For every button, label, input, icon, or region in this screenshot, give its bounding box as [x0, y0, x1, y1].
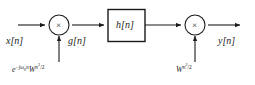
mod-left-w-exp-div: /2	[40, 64, 44, 70]
chirp-modulation-block-diagram: × × x[n] g[n] y[n] h[n] e−jω0nWn2/2 Wn2/…	[0, 0, 255, 85]
modulation-right-label: Wn2/2	[176, 65, 192, 74]
modulation-left-label: e−jω0nWn2/2	[12, 65, 44, 74]
filter-block-label: h[n]	[116, 20, 134, 30]
mod-right-w-exp-div: /2	[188, 64, 192, 70]
intermediate-signal-label: g[n]	[68, 36, 86, 46]
output-signal-label: y[n]	[218, 36, 235, 46]
multiplier-1-times-icon: ×	[56, 21, 61, 30]
input-signal-label: x[n]	[6, 36, 23, 46]
mod-right-w-base: W	[176, 65, 183, 74]
multiplier-2-times-icon: ×	[192, 21, 197, 30]
